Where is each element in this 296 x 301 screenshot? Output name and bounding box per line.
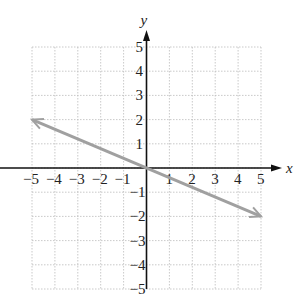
svg-text:−3: −3 (130, 233, 146, 249)
svg-text:2: 2 (136, 112, 144, 128)
svg-text:3: 3 (211, 171, 219, 187)
svg-text:4: 4 (136, 63, 144, 79)
svg-text:−4: −4 (46, 171, 62, 187)
coordinate-plane: xy −5−4−3−2−11234554321−1−2−3−4−5 (0, 0, 296, 301)
svg-text:1: 1 (136, 136, 144, 152)
svg-text:−5: −5 (130, 281, 146, 297)
axes: xy (0, 12, 293, 289)
svg-text:−2: −2 (130, 208, 146, 224)
svg-text:−4: −4 (130, 257, 146, 273)
svg-text:x: x (285, 160, 293, 176)
svg-text:−3: −3 (69, 171, 85, 187)
svg-text:5: 5 (257, 171, 265, 187)
svg-text:y: y (139, 12, 148, 28)
svg-text:−1: −1 (115, 171, 131, 187)
svg-text:−2: −2 (92, 171, 108, 187)
svg-text:5: 5 (136, 39, 144, 55)
svg-text:4: 4 (234, 171, 242, 187)
svg-text:−5: −5 (23, 171, 39, 187)
svg-text:3: 3 (136, 87, 144, 103)
svg-text:−1: −1 (130, 184, 146, 200)
